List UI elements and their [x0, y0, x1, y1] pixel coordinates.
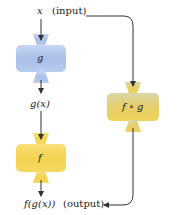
input-tag-label: (input) — [52, 5, 86, 16]
g-output-label: g(x) — [30, 98, 50, 109]
output-tag-label: (output) — [63, 198, 104, 209]
f-box-label: f — [38, 152, 42, 163]
composite-box-label: f ∘ g — [122, 101, 143, 112]
arrow-input-to-composite — [86, 16, 133, 86]
input-variable-label: x — [37, 5, 43, 16]
g-box-label: g — [37, 52, 43, 63]
diagram-canvas — [0, 0, 178, 215]
final-output-label: f(g(x)) — [24, 198, 55, 209]
arrow-composite-to-output — [104, 128, 133, 205]
